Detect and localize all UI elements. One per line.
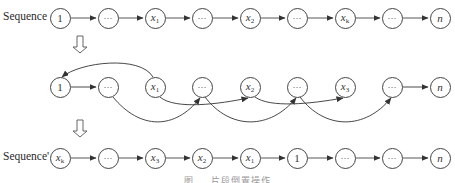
down-arrow-icon [73, 120, 87, 137]
sequence-node: ··· [192, 8, 213, 29]
row-label-sequence-prime: Sequence' [3, 150, 49, 162]
sequence-node: x2 [240, 77, 261, 98]
sequence-node: x1 [240, 148, 261, 169]
node-variable: x3 [151, 151, 159, 165]
sequence-node: x2 [192, 148, 213, 169]
node-subscript: k [61, 157, 65, 165]
sequence-node: x3 [335, 77, 356, 98]
sequence-node: x1 [145, 77, 166, 98]
sequence-node: n [430, 77, 451, 98]
node-variable: xk [56, 151, 64, 165]
sequence-node: x3 [145, 148, 166, 169]
sequence-node: xk [50, 148, 71, 169]
sequence-node: ··· [287, 8, 308, 29]
node-variable: x1 [151, 11, 159, 25]
sequence-node: ··· [98, 77, 119, 98]
node-variable: x3 [341, 80, 349, 94]
sequence-node: ··· [98, 148, 119, 169]
sequence-node: 1 [287, 148, 308, 169]
node-variable: x1 [151, 80, 159, 94]
node-subscript: 1 [156, 86, 160, 94]
node-variable: n [437, 12, 443, 24]
sequence-node: ··· [382, 77, 403, 98]
sequence-node: ··· [382, 148, 403, 169]
figure-caption: 图 … 片段倒置操作 [0, 174, 455, 183]
node-variable: x2 [246, 80, 254, 94]
node-subscript: 1 [251, 157, 255, 165]
sequence-node: ··· [335, 148, 356, 169]
sequence-node: n [430, 148, 451, 169]
node-subscript: 2 [251, 17, 255, 25]
node-variable: x1 [246, 151, 254, 165]
sequence-node: n [430, 8, 451, 29]
down-arrow-icon [73, 36, 87, 53]
node-variable: xk [341, 11, 349, 25]
node-subscript: 3 [346, 86, 350, 94]
node-subscript: k [346, 17, 350, 25]
sequence-node: x2 [240, 8, 261, 29]
node-variable: x2 [198, 151, 206, 165]
sequence-node: ··· [382, 8, 403, 29]
node-variable: x2 [246, 11, 254, 25]
sequence-node: ··· [287, 77, 308, 98]
sequence-node: ··· [192, 77, 213, 98]
sequence-node: 1 [50, 77, 71, 98]
sequence-node: x1 [145, 8, 166, 29]
sequence-node: 1 [50, 8, 71, 29]
sequence-node: xk [335, 8, 356, 29]
node-variable: n [437, 81, 443, 93]
sequence-node: ··· [98, 8, 119, 29]
node-variable: n [437, 152, 443, 164]
node-subscript: 2 [203, 157, 207, 165]
node-subscript: 1 [156, 17, 160, 25]
node-subscript: 3 [156, 157, 160, 165]
row-label-sequence: Sequence [3, 10, 47, 22]
node-subscript: 2 [251, 86, 255, 94]
